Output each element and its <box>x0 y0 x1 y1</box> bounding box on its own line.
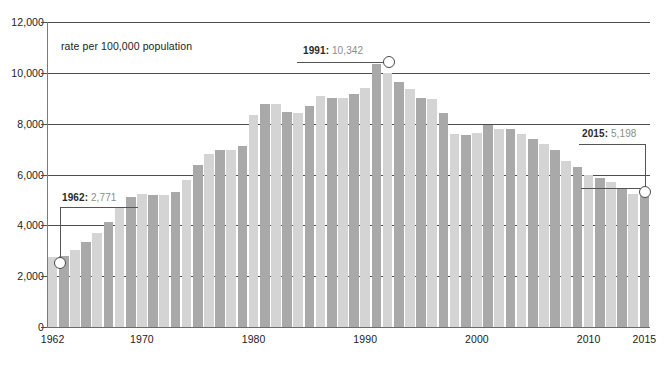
bar <box>372 64 382 327</box>
bar <box>193 165 203 327</box>
bar <box>640 195 650 327</box>
bar <box>282 112 292 327</box>
bar <box>260 104 270 327</box>
x-axis-tick-label: 2000 <box>465 333 489 345</box>
y-axis-tick <box>41 276 47 277</box>
bar <box>427 99 437 327</box>
bar <box>494 129 504 327</box>
y-axis-tick-label: 12,000 <box>0 16 44 28</box>
bar <box>360 88 370 327</box>
bar <box>383 73 393 327</box>
bar <box>126 197 136 327</box>
y-axis-tick-label: 6,000 <box>0 169 44 181</box>
y-axis-tick <box>41 124 47 125</box>
y-axis-tick <box>41 175 47 176</box>
bar <box>472 133 482 327</box>
bar <box>115 208 125 327</box>
y-axis-tick-label: 10,000 <box>0 67 44 79</box>
bar <box>628 194 638 327</box>
y-axis-tick <box>41 73 47 74</box>
bar <box>606 182 616 327</box>
anno-1991-leader-line <box>297 62 385 63</box>
bar <box>595 178 605 327</box>
bar <box>483 125 493 327</box>
anno-2015-marker <box>639 186 651 198</box>
bar <box>137 194 147 327</box>
bar <box>517 134 527 327</box>
bar <box>550 150 560 327</box>
bar-series <box>47 22 650 327</box>
bar <box>215 150 225 327</box>
anno-1962-leader-line <box>60 207 138 208</box>
bar <box>506 129 516 327</box>
bar <box>70 250 80 327</box>
bar <box>584 175 594 327</box>
x-axis-tick-label: 1962 <box>41 333 65 345</box>
y-axis-tick <box>41 22 47 23</box>
y-axis-labels: 02,0004,0006,0008,00010,00012,000 <box>0 22 44 328</box>
bar <box>528 139 538 327</box>
bar <box>561 161 571 327</box>
chart-caption: rate per 100,000 population <box>61 40 192 52</box>
y-axis-line <box>47 22 48 328</box>
y-axis-tick-label: 0 <box>0 321 44 333</box>
bar <box>327 98 337 327</box>
x-axis-tick-label: 1970 <box>130 333 154 345</box>
anno-1962-leader-line <box>60 207 61 263</box>
x-axis-tick-label: 1990 <box>353 333 377 345</box>
y-axis-tick-label: 8,000 <box>0 118 44 130</box>
bar <box>439 113 449 327</box>
bar <box>249 115 259 327</box>
bar <box>305 106 315 327</box>
bar <box>405 89 415 327</box>
y-axis-tick <box>41 225 47 226</box>
bar <box>182 180 192 327</box>
x-axis-tick-label: 2010 <box>577 333 601 345</box>
bar <box>349 94 359 327</box>
anno-2015-leader-line <box>579 144 645 145</box>
bar <box>159 195 169 327</box>
y-axis-tick <box>41 327 47 328</box>
bar <box>171 192 181 327</box>
bar <box>204 154 214 327</box>
bar <box>92 233 102 327</box>
x-axis-tick-label: 2015 <box>633 333 657 345</box>
bar <box>450 134 460 327</box>
anno-2015-leader-line <box>645 144 646 188</box>
y-axis-tick-label: 2,000 <box>0 270 44 282</box>
x-axis-labels: 1962197019801990200020102015 <box>0 333 665 353</box>
anno-1991-label: 1991: 10,342 <box>303 45 363 56</box>
bar <box>416 98 426 327</box>
bar <box>81 242 91 327</box>
gridline <box>47 327 650 328</box>
bar <box>461 135 471 327</box>
bar <box>226 150 236 327</box>
bar <box>394 82 404 327</box>
bar-chart: 02,0004,0006,0008,00010,00012,000 rate p… <box>0 0 665 371</box>
anno-1962-label: 1962: 2,771 <box>62 192 116 203</box>
bar <box>316 96 326 327</box>
anno-1991-marker <box>383 56 395 68</box>
y-axis-tick-label: 4,000 <box>0 219 44 231</box>
bar <box>539 144 549 327</box>
bar <box>293 113 303 327</box>
bar <box>238 146 248 327</box>
anno-1962-marker <box>54 257 66 269</box>
bar <box>617 189 627 327</box>
plot-area: rate per 100,000 population <box>47 22 650 327</box>
bar <box>148 195 158 327</box>
bar <box>104 222 114 327</box>
bar <box>573 167 583 327</box>
anno-2015-leader-line <box>581 188 646 189</box>
anno-2015-label: 2015: 5,198 <box>582 128 636 139</box>
bar <box>271 104 281 327</box>
x-axis-tick-label: 1980 <box>242 333 266 345</box>
bar <box>338 98 348 327</box>
